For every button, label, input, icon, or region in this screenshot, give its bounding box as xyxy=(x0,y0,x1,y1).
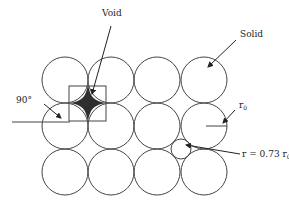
small-r-label: r = 0.73 r0 xyxy=(242,149,289,160)
small-r-leader xyxy=(186,145,240,154)
r0-label: r0 xyxy=(239,100,247,111)
void-leader xyxy=(92,26,111,94)
sphere xyxy=(42,57,88,103)
angle-arrow xyxy=(44,104,61,118)
sphere xyxy=(42,149,88,195)
sphere xyxy=(42,103,88,149)
solid-arrow xyxy=(208,40,236,67)
interstitial-sphere xyxy=(171,139,191,159)
sphere xyxy=(88,149,134,195)
void-label: Void xyxy=(101,8,122,18)
solid-label: Solid xyxy=(240,29,263,39)
sphere xyxy=(88,103,134,149)
sphere xyxy=(134,57,180,103)
angle-label: 90° xyxy=(16,95,32,105)
packing-diagram: 90° Void Solid r0 r = 0.73 r0 xyxy=(0,0,289,217)
void-star xyxy=(70,84,106,122)
sphere xyxy=(88,57,134,103)
solid-spheres xyxy=(42,57,227,195)
sphere xyxy=(181,57,227,103)
